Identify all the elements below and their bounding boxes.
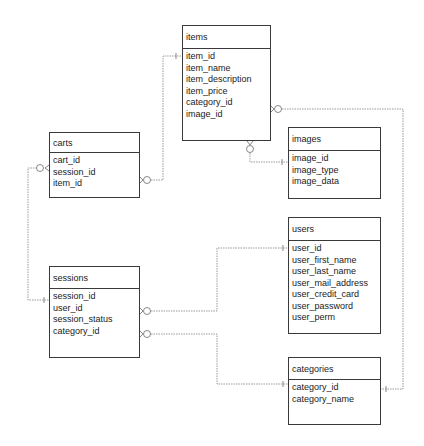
field-user-perm: user_perm xyxy=(292,312,380,324)
entity-images[interactable]: images image_id image_type image_data xyxy=(288,127,381,199)
field-image-id: image_id xyxy=(292,153,380,165)
field-user-credit-card: user_credit_card xyxy=(292,289,380,301)
field-user-password: user_password xyxy=(292,301,380,313)
field-cart-id: cart_id xyxy=(53,155,139,167)
field-category-id: category_id xyxy=(186,97,270,109)
entity-title: items xyxy=(183,26,270,49)
entity-carts[interactable]: carts cart_id session_id item_id xyxy=(49,132,140,198)
entity-users[interactable]: users user_id user_first_name user_last_… xyxy=(288,217,381,334)
field-image-id: image_id xyxy=(186,109,270,121)
crowfoot-zero-items-category xyxy=(275,106,282,113)
field-item-description: item_description xyxy=(186,74,270,86)
rel-carts-items xyxy=(151,56,182,180)
entity-sessions[interactable]: sessions session_id user_id session_stat… xyxy=(49,266,140,358)
field-item-id: item_id xyxy=(186,51,270,63)
entity-title: images xyxy=(289,128,380,151)
crowfoot-zero-items-image xyxy=(247,146,254,153)
field-category-name: category_name xyxy=(292,394,380,406)
crowfoot-zero-carts-item xyxy=(144,177,151,184)
entity-categories[interactable]: categories category_id category_name xyxy=(288,357,381,425)
field-image-type: image_type xyxy=(292,165,380,177)
field-category-id: category_id xyxy=(53,326,139,338)
field-image-data: image_data xyxy=(292,176,380,188)
field-session-status: session_status xyxy=(53,314,139,326)
field-user-last-name: user_last_name xyxy=(292,266,380,278)
rel-carts-sessions xyxy=(28,168,49,300)
entity-title: users xyxy=(289,218,380,241)
rel-sessions-categories xyxy=(151,334,288,384)
rel-sessions-users xyxy=(151,248,288,311)
field-item-id: item_id xyxy=(53,178,139,190)
entity-title: carts xyxy=(50,133,139,153)
field-item-name: item_name xyxy=(186,63,270,75)
rel-items-images xyxy=(250,153,288,162)
entity-title: sessions xyxy=(50,267,139,289)
field-session-id: session_id xyxy=(53,167,139,179)
crowfoot-zero-carts-session xyxy=(37,165,44,172)
field-user-id: user_id xyxy=(292,243,380,255)
er-diagram-canvas: items item_id item_name item_description… xyxy=(0,0,424,446)
field-user-first-name: user_first_name xyxy=(292,255,380,267)
field-user-mail-address: user_mail_address xyxy=(292,278,380,290)
field-session-id: session_id xyxy=(53,291,139,303)
crowfoot-zero-sessions-user xyxy=(144,308,151,315)
field-user-id: user_id xyxy=(53,303,139,315)
entity-title: categories xyxy=(289,358,380,380)
field-item-price: item_price xyxy=(186,86,270,98)
crowfoot-zero-sessions-category xyxy=(144,331,151,338)
entity-items[interactable]: items item_id item_name item_description… xyxy=(182,25,271,141)
field-category-id: category_id xyxy=(292,382,380,394)
